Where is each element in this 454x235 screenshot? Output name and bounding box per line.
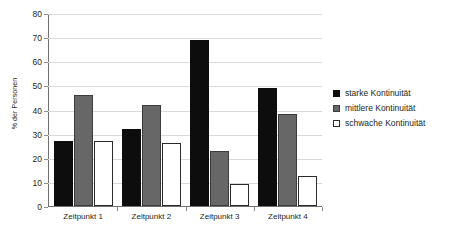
legend-label-middle: mittlere Kontinuität (345, 104, 415, 113)
legend-swatch-middle-icon (333, 105, 340, 112)
y-tick-label: 50 (33, 82, 42, 91)
legend-label-strong: starke Kontinuität (345, 89, 411, 98)
y-tick-mark (44, 38, 48, 39)
y-tick-label: 30 (33, 130, 42, 139)
bar[interactable] (142, 105, 161, 206)
x-tick-mark (186, 207, 187, 211)
x-tick-label: Zeitpunkt 1 (63, 212, 103, 221)
y-tick-label: 0 (37, 203, 42, 212)
y-tick-label: 40 (33, 106, 42, 115)
bar[interactable] (122, 129, 141, 206)
legend-swatch-strong-icon (333, 90, 340, 97)
bar[interactable] (210, 151, 229, 206)
bar-group (186, 14, 254, 206)
bar[interactable] (162, 143, 181, 206)
bar-groups (49, 14, 322, 206)
x-tick-label: Zeitpunkt 4 (268, 212, 308, 221)
plot-area: 01020304050607080 (48, 14, 322, 207)
bar[interactable] (278, 114, 297, 206)
y-axis-title-text: % der Personen (12, 78, 19, 130)
y-tick-mark (44, 159, 48, 160)
y-tick-label: 70 (33, 34, 42, 43)
x-tick-mark (117, 207, 118, 211)
bar[interactable] (230, 184, 249, 206)
bar[interactable] (258, 88, 277, 206)
y-tick-mark (44, 86, 48, 87)
legend-item-weak[interactable]: schwache Kontinuität (333, 116, 425, 131)
bar[interactable] (74, 95, 93, 206)
y-tick-label: 80 (33, 10, 42, 19)
x-tick-label: Zeitpunkt 3 (200, 212, 240, 221)
legend-item-strong[interactable]: starke Kontinuität (333, 86, 425, 101)
x-tick-mark (254, 207, 255, 211)
legend-swatch-weak-icon (333, 120, 340, 127)
y-tick-mark (44, 207, 48, 208)
x-tick-label: Zeitpunkt 2 (132, 212, 172, 221)
bar[interactable] (54, 141, 73, 206)
y-tick-label: 10 (33, 179, 42, 188)
bar[interactable] (298, 176, 317, 206)
bar-chart: % der Personen 01020304050607080 Zeitpun… (0, 0, 454, 235)
bar[interactable] (94, 141, 113, 206)
y-tick-mark (44, 111, 48, 112)
y-tick-mark (44, 14, 48, 15)
bar-group (49, 14, 117, 206)
y-axis-title: % der Personen (6, 0, 24, 207)
y-tick-label: 20 (33, 155, 42, 164)
x-tick-mark (322, 207, 323, 211)
bar[interactable] (190, 40, 209, 206)
y-tick-mark (44, 62, 48, 63)
bar-group (117, 14, 185, 206)
legend-item-middle[interactable]: mittlere Kontinuität (333, 101, 425, 116)
legend: starke Kontinuität mittlere Kontinuität … (333, 86, 425, 131)
bar-group (254, 14, 322, 206)
y-tick-mark (44, 183, 48, 184)
legend-label-weak: schwache Kontinuität (345, 119, 425, 128)
y-tick-mark (44, 135, 48, 136)
y-tick-label: 60 (33, 58, 42, 67)
